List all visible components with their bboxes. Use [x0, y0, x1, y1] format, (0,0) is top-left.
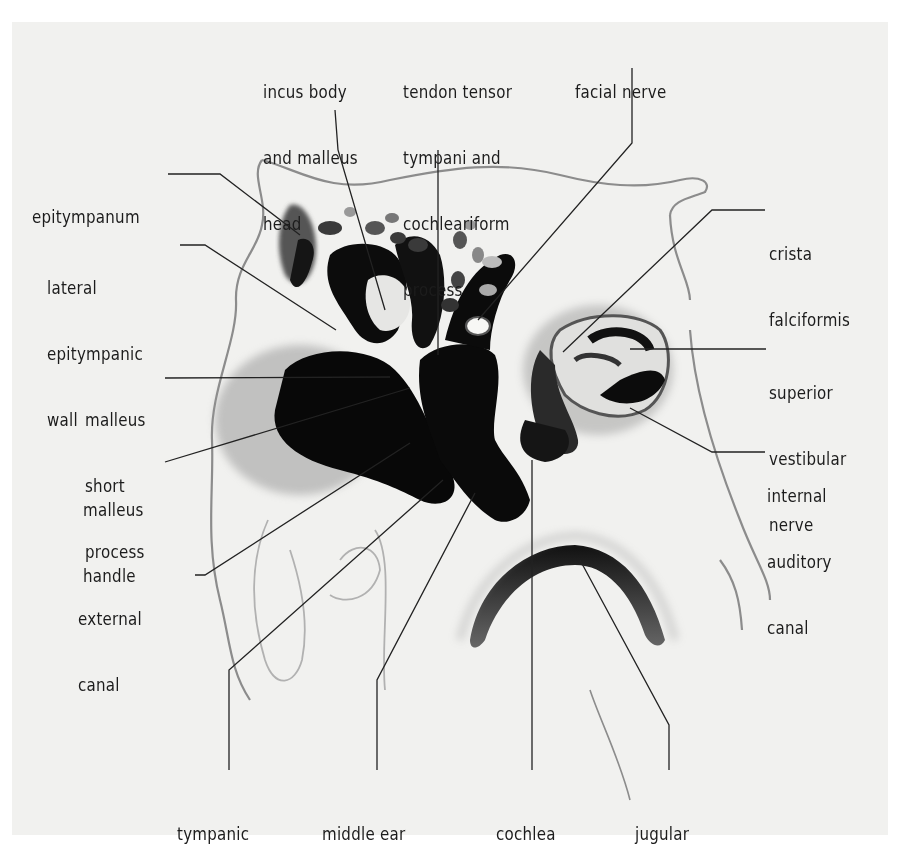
label-crista-falciformis: crista falciformis: [769, 199, 850, 353]
label-middle-ear: middle ear: [322, 779, 405, 848]
label-tympanic-membrane: tympanic membrane: [177, 779, 261, 848]
label-incus-body: incus body and malleus head: [263, 37, 358, 257]
label-cochlea: cochlea: [496, 779, 556, 848]
label-external-canal: external canal: [78, 564, 142, 718]
auricle-sketch: [254, 520, 386, 690]
label-tendon-tensor-tympani: tendon tensor tympani and cochleariform …: [403, 37, 512, 323]
label-jugular: jugular: [635, 779, 689, 848]
label-internal-auditory-canal: internal auditory canal: [767, 441, 832, 661]
label-facial-nerve: facial nerve: [575, 37, 666, 125]
